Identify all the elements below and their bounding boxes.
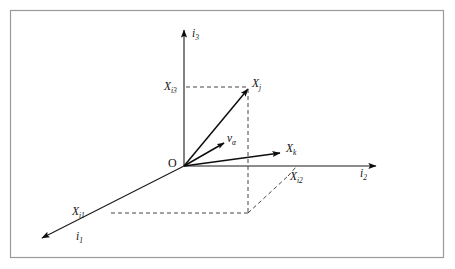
vector-label-xk-sub: k <box>293 148 296 157</box>
projection-label-xi3-sub: i3 <box>171 86 177 95</box>
projection-label-xi1-sub: i1 <box>79 211 85 220</box>
projection-label-xi1-base: X <box>72 205 79 217</box>
projection-label-xi2: Xi2 <box>290 171 303 185</box>
projection-label-xi2-sub: i2 <box>297 176 303 185</box>
projection-label-xi3-base: X <box>164 80 171 92</box>
vector-label-xj-base: X <box>252 77 259 89</box>
figure-container: O i3 i2 i1 Xj Xk vα Xi3 Xi2 Xi1 <box>0 0 455 269</box>
projection-label-xi3: Xi3 <box>164 81 177 95</box>
axis-label-i3-sub: 3 <box>195 33 199 42</box>
axis-label-i1-sub: 1 <box>79 236 83 245</box>
projection-label-xi1: Xi1 <box>72 206 85 220</box>
origin-label-text: O <box>168 156 177 170</box>
axis-label-i3: i3 <box>192 28 199 42</box>
vector-label-xk: Xk <box>286 143 296 157</box>
vector-label-xk-base: X <box>286 142 293 154</box>
vector-label-v-alpha-sub: α <box>232 138 236 147</box>
axis-label-i1: i1 <box>76 231 83 245</box>
vector-label-xj: Xj <box>252 78 261 92</box>
vector-label-v-alpha: vα <box>227 133 236 147</box>
axis-label-i2-sub: 2 <box>363 173 367 182</box>
axis-label-i2: i2 <box>360 168 367 182</box>
projection-label-xi2-base: X <box>290 170 297 182</box>
origin-label: O <box>168 157 177 169</box>
vector-label-xj-sub: j <box>259 83 261 92</box>
